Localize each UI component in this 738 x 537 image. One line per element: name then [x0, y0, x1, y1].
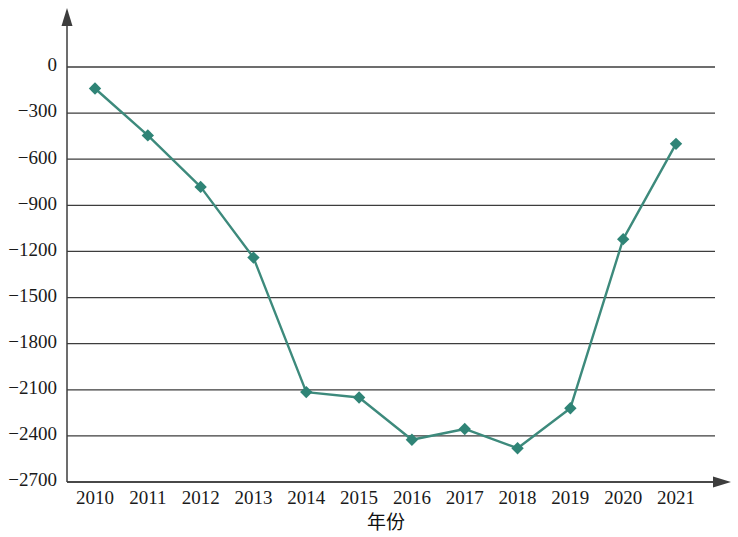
y-axis-tick-label: −1800 — [8, 331, 57, 352]
y-axis-tick-labels: 0−300−600−900−1200−1500−1800−2100−2400−2… — [8, 54, 57, 490]
data-series-line — [95, 89, 676, 449]
data-point-markers — [89, 82, 682, 454]
line-chart: 0−300−600−900−1200−1500−1800−2100−2400−2… — [0, 0, 738, 537]
gridlines — [67, 67, 715, 482]
y-axis-tick-label: −2700 — [8, 469, 57, 490]
x-axis-tick-label: 2013 — [234, 487, 272, 508]
x-axis-tick-label: 2021 — [657, 487, 695, 508]
x-axis-tick-label: 2011 — [129, 487, 166, 508]
x-axis-tick-label: 2020 — [604, 487, 642, 508]
x-axis-tick-label: 2012 — [182, 487, 220, 508]
y-axis-arrow-icon — [62, 8, 73, 26]
data-point-marker — [300, 386, 312, 398]
y-axis-tick-label: −1200 — [8, 239, 57, 260]
chart-canvas: 0−300−600−900−1200−1500−1800−2100−2400−2… — [0, 0, 738, 537]
y-axis-tick-label: −900 — [18, 193, 57, 214]
x-axis-tick-labels: 2010201120122013201420152016201720182019… — [76, 487, 695, 508]
x-axis-tick-label: 2015 — [340, 487, 378, 508]
x-axis-tick-label: 2017 — [446, 487, 484, 508]
x-axis-tick-label: 2010 — [76, 487, 114, 508]
y-axis-tick-label: −600 — [18, 147, 57, 168]
data-point-marker — [459, 423, 471, 435]
y-axis-tick-label: 0 — [48, 54, 58, 75]
x-axis-tick-label: 2019 — [551, 487, 589, 508]
x-axis-arrow-icon — [713, 477, 731, 488]
data-point-marker — [670, 138, 682, 150]
x-axis-tick-label: 2014 — [287, 487, 326, 508]
data-point-marker — [617, 233, 629, 245]
x-axis-title: 年份 — [367, 512, 405, 533]
y-axis-tick-label: −1500 — [8, 285, 57, 306]
x-axis-tick-label: 2018 — [499, 487, 537, 508]
y-axis-tick-label: −2400 — [8, 423, 57, 444]
y-axis-tick-label: −2100 — [8, 377, 57, 398]
x-axis-tick-label: 2016 — [393, 487, 431, 508]
y-axis-tick-label: −300 — [18, 100, 57, 121]
